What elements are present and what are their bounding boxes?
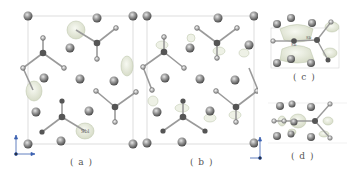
svg-text:Sb: Sb [306, 35, 312, 40]
panel-b: ( b ) [140, 0, 258, 176]
svg-text:Sbl: Sbl [81, 128, 90, 134]
panel-a: Sbl ( a ) [0, 0, 140, 176]
panel-label-b: ( b ) [190, 157, 214, 167]
panel-d: ( d ) [258, 88, 347, 176]
crystal-structure-b [140, 0, 258, 176]
panel-label-d: ( d ) [291, 151, 315, 161]
svg-text:Sb: Sb [291, 42, 297, 47]
crystal-structure-d [258, 88, 347, 176]
panel-label-a: ( a ) [70, 157, 93, 167]
panel-label-c: ( c ) [293, 72, 316, 82]
panel-c: Sb Sb ( c ) [258, 0, 347, 88]
crystal-structure-a: Sbl [0, 0, 140, 176]
axis-indicator-icon [248, 134, 268, 164]
